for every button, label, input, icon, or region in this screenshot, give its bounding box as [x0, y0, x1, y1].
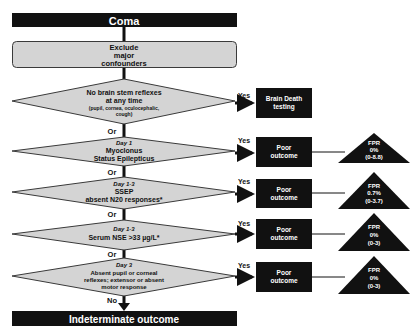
decision-1-note-2: cough) [116, 111, 133, 117]
decision-brainstem-reflexes: No brain stem reflexes at any time (pupi… [12, 79, 235, 124]
fpr-3-value: 0% [370, 232, 379, 238]
start-node-coma: Coma [12, 13, 237, 27]
outcome-5-line-1: Poor [277, 269, 292, 276]
outcome-1-line-2: testing [273, 103, 294, 111]
decision-3-day: Day 1-3 [113, 181, 135, 187]
or-label-4: Or [108, 250, 117, 259]
yes-label-5: Yes [238, 262, 250, 269]
outcome-poor-2: Poor outcome [256, 179, 312, 208]
fpr-4-label: FPR [368, 267, 381, 273]
outcome-2-line-2: outcome [270, 152, 297, 159]
decision-serum-nse: Day 1-3 Serum NSE >33 µg/L* [12, 220, 235, 250]
decision-5-line-2: reflexes; extensor or absent [84, 277, 164, 283]
fpr-triangle-2: FPR 0.7% (0-3.7) [338, 172, 410, 209]
or-label-1: Or [108, 127, 117, 136]
outcome-3-line-2: outcome [270, 194, 297, 201]
fpr-2-label: FPR [368, 183, 381, 189]
outcome-4-line-2: outcome [270, 234, 297, 241]
outcome-1-line-1: Brain Death [266, 95, 303, 102]
decision-1-line-1: No brain stem reflexes [86, 89, 161, 96]
start-label: Coma [109, 15, 140, 27]
yes-label-2: Yes [238, 137, 250, 144]
decision-3-line-2: absent N20 responses* [85, 196, 162, 204]
decision-2-line-1: Myoclonus [106, 147, 143, 155]
fpr-1-label: FPR [368, 140, 381, 146]
exclude-line-3: confounders [101, 59, 146, 68]
end-label: Indeterminate outcome [69, 314, 179, 325]
fpr-3-range: (0-3) [368, 240, 381, 246]
outcome-brain-death-testing: Brain Death testing [256, 88, 312, 118]
decision-4-day: Day 1-3 [113, 226, 135, 232]
fpr-triangle-3: FPR 0% (0-3) [338, 213, 410, 251]
arrow-down-icon [118, 303, 130, 311]
decision-ssep: Day 1-3 SSEP absent N20 responses* [12, 177, 235, 209]
no-label: No [107, 296, 117, 305]
fpr-1-value: 0% [370, 147, 379, 153]
outcome-4-line-1: Poor [277, 226, 292, 233]
decision-3-line-1: SSEP [115, 188, 134, 195]
flowchart: Coma Exclude major confounders No brain … [0, 0, 419, 335]
yes-label-4: Yes [238, 220, 250, 227]
decision-myoclonus: Day 1 Myoclonus Status Epilepticus [12, 137, 235, 166]
fpr-2-value: 0.7% [367, 190, 381, 196]
decision-2-day: Day 1 [116, 140, 133, 146]
outcome-poor-1: Poor outcome [256, 137, 312, 167]
or-label-2: Or [108, 168, 117, 177]
end-node-indeterminate: Indeterminate outcome [12, 311, 237, 326]
decision-5-line-1: Absent pupil or corneal [90, 270, 157, 276]
outcome-poor-4: Poor outcome [256, 262, 312, 292]
decision-5-day: Day 3 [116, 262, 133, 268]
decision-2-line-2: Status Epilepticus [94, 155, 155, 163]
fpr-3-label: FPR [368, 224, 381, 230]
decision-1-line-2: at any time [106, 97, 143, 105]
fpr-triangle-1: FPR 0% (0-8.8) [338, 133, 410, 163]
fpr-2-range: (0-3.7) [365, 198, 383, 204]
outcome-poor-3: Poor outcome [256, 219, 312, 249]
fpr-triangle-4: FPR 0% (0-3) [338, 256, 410, 294]
fpr-4-value: 0% [370, 275, 379, 281]
yes-label-1: Yes [238, 92, 250, 99]
decision-day3-reflexes: Day 3 Absent pupil or corneal reflexes; … [12, 258, 235, 296]
decision-4-line-1: Serum NSE >33 µg/L* [88, 234, 159, 242]
yes-label-3: Yes [238, 178, 250, 185]
fpr-1-range: (0-8.8) [365, 154, 383, 160]
outcome-3-line-1: Poor [277, 186, 292, 193]
exclude-confounders-node: Exclude major confounders [13, 42, 237, 69]
outcome-5-line-2: outcome [270, 277, 297, 284]
or-label-3: Or [108, 210, 117, 219]
outcome-2-line-1: Poor [277, 144, 292, 151]
decision-5-line-3: motor response [101, 284, 147, 290]
fpr-4-range: (0-3) [368, 283, 381, 289]
